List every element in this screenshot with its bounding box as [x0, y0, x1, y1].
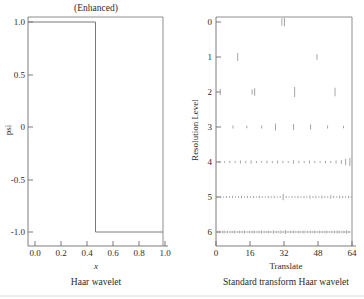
- left-plot-caption: Haar wavelet: [71, 277, 122, 287]
- left-x-ticks: [35, 241, 165, 246]
- left-xtick-4: 0.6: [107, 248, 119, 258]
- left-y-ticks: [28, 22, 33, 232]
- left-xtick-5: 0.8: [133, 248, 145, 258]
- right-plot-caption: Standard transform Haar wavelet: [223, 277, 349, 287]
- left-plot-title: (Enhanced): [74, 3, 118, 14]
- right-y-ticks: [216, 22, 221, 232]
- right-x-ticks: [216, 241, 352, 246]
- left-ytick-3: 0: [21, 122, 26, 132]
- left-x-axis-label: x: [93, 261, 98, 271]
- left-xtick-1: 0.0: [29, 248, 41, 258]
- haar-wavelet-step-curve: [28, 22, 163, 232]
- right-ytick-label-1: 1: [208, 52, 213, 62]
- right-plot-standard-transform: 0123456 016324864 Translate Standard tra…: [190, 17, 357, 287]
- right-y-tick-labels: 0123456: [208, 17, 213, 237]
- left-ytick-1: 1.0: [14, 17, 26, 27]
- left-xtick-3: 0.4: [81, 248, 93, 258]
- left-xtick-6: 1.0: [159, 248, 171, 258]
- right-xtick-label-1: 16: [246, 248, 256, 258]
- figure-canvas: (Enhanced) 1.0 0.5 0 -0.5 -1.0: [0, 0, 364, 299]
- right-x-tick-labels: 016324864: [214, 248, 357, 258]
- right-plot-frame: [216, 17, 352, 246]
- left-x-tick-labels: 0.0 0.2 0.4 0.6 0.8 1.0: [29, 248, 171, 258]
- wavelet-figure-panel: (Enhanced) 1.0 0.5 0 -0.5 -1.0: [0, 0, 364, 299]
- right-ytick-label-3: 3: [208, 122, 213, 132]
- left-ytick-4: -0.5: [11, 175, 26, 185]
- right-xtick-label-2: 32: [280, 248, 289, 258]
- left-xtick-2: 0.2: [55, 248, 66, 258]
- right-ytick-label-4: 4: [208, 157, 213, 167]
- left-ytick-5: -1.0: [11, 227, 26, 237]
- right-y-axis-label: Resolution Level: [190, 99, 200, 161]
- right-xtick-label-4: 64: [348, 248, 358, 258]
- coefficient-spike-marks: [217, 18, 351, 235]
- left-plot-haar-wavelet: (Enhanced) 1.0 0.5 0 -0.5 -1.0: [3, 3, 171, 287]
- left-ytick-2: 0.5: [14, 70, 26, 80]
- left-y-axis-label: psi: [3, 124, 13, 135]
- right-ytick-label-5: 5: [208, 192, 213, 202]
- right-ytick-label-0: 0: [208, 17, 213, 27]
- right-ytick-label-2: 2: [208, 87, 213, 97]
- right-xtick-label-0: 0: [214, 248, 219, 258]
- right-xtick-label-3: 48: [314, 248, 324, 258]
- right-ytick-label-6: 6: [208, 227, 213, 237]
- right-x-axis-label: Translate: [269, 261, 302, 271]
